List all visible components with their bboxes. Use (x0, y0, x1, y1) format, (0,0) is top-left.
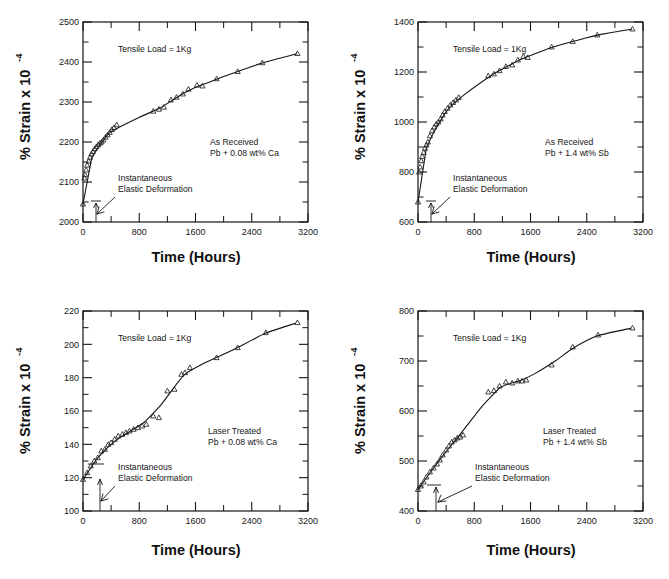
y-ticklabel: 400 (399, 506, 414, 516)
y-axis-title-group-bl: % Strain x 10 -4 (13, 347, 33, 454)
x-axis-title-tr: Time (Hours) (486, 249, 575, 265)
y-ticklabels-tl: 200021002200230024002500 (59, 17, 79, 227)
chart-panel-top-right: % Strain x 10 -4 600800100012001400 0800… (335, 0, 669, 289)
y-axis-title-br: % Strain x 10 (352, 364, 368, 454)
y-ticklabel: 2000 (59, 217, 79, 227)
x-ticklabel: 1600 (520, 227, 540, 237)
y-ticklabels-br: 400500600700800 (399, 306, 414, 516)
elastic-annotation-line2-br: Elastic Deformation (475, 473, 550, 483)
y-ticklabel: 2500 (59, 17, 79, 27)
data-point-marker (156, 415, 161, 420)
chart-panel-top-left: % Strain x 10 -4 20002100220023002400250… (0, 0, 334, 289)
y-axis-title-tl: % Strain x 10 (17, 70, 33, 160)
elastic-annotation-line2-bl: Elastic Deformation (118, 473, 193, 483)
figure-root: % Strain x 10 -4 20002100220023002400250… (0, 0, 669, 579)
condition-line1-tl: As Received (210, 137, 258, 147)
load-annotation-tr: Tensile Load = 1Kg (453, 44, 527, 54)
initial-rise-segment (83, 459, 97, 479)
trend-curve (92, 54, 297, 158)
initial-rise-segment (418, 148, 426, 202)
data-point-marker (112, 437, 117, 442)
x-ticklabel: 800 (467, 227, 482, 237)
load-annotation-br: Tensile Load = 1Kg (453, 333, 527, 343)
trend-curve (430, 328, 631, 472)
x-ticklabel: 800 (132, 227, 147, 237)
chart-svg-top-right: % Strain x 10 -4 600800100012001400 0800… (335, 0, 669, 289)
y-ticklabels-tr: 600800100012001400 (394, 17, 414, 227)
figure-caption (0, 570, 669, 579)
y-axis-title-exponent-tr: -4 (348, 53, 359, 62)
y-ticklabel: 2200 (59, 137, 79, 147)
data-point-marker (630, 26, 635, 31)
y-ticklabel: 100 (64, 506, 79, 516)
y-ticklabel: 2300 (59, 97, 79, 107)
chart-svg-top-left: % Strain x 10 -4 20002100220023002400250… (0, 0, 334, 289)
y-axis-title-bl: % Strain x 10 (17, 364, 33, 454)
chart-panel-bottom-left: % Strain x 10 -4 100120140160180200220 0… (0, 289, 334, 578)
elastic-arrow-br (427, 485, 472, 511)
x-ticklabel: 2400 (577, 516, 597, 526)
y-ticklabel: 600 (399, 406, 414, 416)
x-ticklabel: 1600 (520, 516, 540, 526)
data-point-marker (486, 389, 491, 394)
y-ticklabel: 1200 (394, 67, 414, 77)
elastic-annotation-line1-br: Instantaneous (475, 462, 529, 472)
y-axis-title-group-br: % Strain x 10 -4 (348, 347, 368, 454)
elastic-annotation-line1-tr: Instantaneous (453, 173, 507, 183)
y-ticklabel: 220 (64, 306, 79, 316)
chart-svg-bottom-right: % Strain x 10 -4 400500600700800 0800160… (335, 289, 669, 578)
x-ticklabel: 0 (80, 516, 85, 526)
elastic-annotation-line1-tl: Instantaneous (118, 173, 172, 183)
condition-line1-tr: As Received (545, 137, 593, 147)
plot-frame-bl (83, 311, 308, 511)
x-ticklabel: 2400 (577, 227, 597, 237)
data-point-marker (503, 379, 508, 384)
x-ticklabels-tr: 0800160024003200 (415, 227, 653, 237)
data-point-marker (491, 388, 496, 393)
x-ticklabel: 800 (467, 516, 482, 526)
x-ticklabels-bl: 0800160024003200 (80, 516, 318, 526)
y-ticklabel: 800 (399, 167, 414, 177)
condition-line2-tr: Pb + 1.4 wt% Sb (545, 148, 609, 158)
x-ticklabel: 3200 (298, 516, 318, 526)
elastic-annotation-line2-tr: Elastic Deformation (453, 184, 528, 194)
y-ticklabel: 700 (399, 356, 414, 366)
y-ticklabel: 1000 (394, 117, 414, 127)
condition-line2-tl: Pb + 0.08 wt% Ca (210, 148, 279, 158)
x-ticklabel: 1600 (185, 227, 205, 237)
y-ticklabel: 800 (399, 306, 414, 316)
y-axis-title-tr: % Strain x 10 (352, 70, 368, 160)
condition-line2-br: Pb + 1.4 wt% Sb (543, 437, 607, 447)
y-ticks-tr (418, 22, 643, 222)
load-annotation-bl: Tensile Load = 1Kg (118, 333, 192, 343)
y-ticklabel: 200 (64, 340, 79, 350)
condition-line1-br: Laser Treated (543, 426, 596, 436)
x-ticks-tr (418, 22, 643, 222)
x-ticklabel: 800 (132, 516, 147, 526)
x-ticklabel: 1600 (185, 516, 205, 526)
y-ticklabel: 140 (64, 440, 79, 450)
y-axis-title-exponent-bl: -4 (13, 347, 24, 356)
data-point-marker (84, 167, 89, 172)
data-point-marker (497, 383, 502, 388)
x-ticks-bl (83, 311, 308, 511)
x-ticklabel: 0 (415, 227, 420, 237)
x-ticklabel: 0 (80, 227, 85, 237)
y-ticklabel: 2400 (59, 57, 79, 67)
condition-line2-bl: Pb + 0.08 wt% Ca (208, 437, 277, 447)
elastic-annotation-line2-tl: Elastic Deformation (118, 184, 193, 194)
initial-rise-segment (83, 158, 92, 204)
y-ticklabel: 500 (399, 456, 414, 466)
y-axis-title-exponent-br: -4 (348, 347, 359, 356)
chart-svg-bottom-left: % Strain x 10 -4 100120140160180200220 0… (0, 289, 334, 578)
data-point-marker (114, 122, 119, 127)
y-ticklabel: 2100 (59, 177, 79, 187)
y-ticklabels-bl: 100120140160180200220 (64, 306, 79, 516)
x-ticklabel: 3200 (298, 227, 318, 237)
x-ticklabels-tl: 0800160024003200 (80, 227, 318, 237)
x-axis-title-bl: Time (Hours) (151, 542, 240, 558)
y-ticks-bl (83, 311, 308, 511)
plot-frame-tr (418, 22, 643, 222)
data-point-marker (295, 320, 300, 325)
data-point-marker (187, 365, 192, 370)
